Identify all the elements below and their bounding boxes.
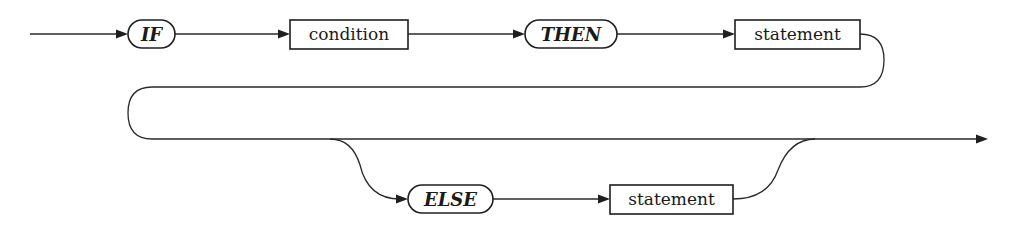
- terminal-then-label: THEN: [541, 24, 603, 45]
- arrow-into-then-icon: [513, 30, 525, 39]
- nonterminal-condition-label: condition: [309, 24, 390, 44]
- else-branch-up: [733, 139, 815, 199]
- terminal-else: ELSE: [408, 185, 493, 213]
- else-branch-down: [330, 139, 400, 199]
- arrow-exit-icon: [976, 135, 988, 144]
- arrow-into-statement-icon: [723, 30, 735, 39]
- arrow-into-condition-icon: [278, 30, 290, 39]
- nonterminal-statement-else-label: statement: [628, 189, 715, 209]
- terminal-if-label: IF: [140, 24, 163, 45]
- arrow-into-else-statement-icon: [598, 195, 610, 204]
- nonterminal-statement-then-label: statement: [754, 24, 841, 44]
- arrow-into-else-icon: [396, 195, 408, 204]
- terminal-then: THEN: [525, 20, 617, 48]
- arrow-into-if-icon: [116, 30, 128, 39]
- terminal-else-label: ELSE: [423, 189, 477, 210]
- nonterminal-condition: condition: [290, 20, 408, 49]
- nonterminal-statement-else: statement: [610, 185, 733, 214]
- terminal-if: IF: [128, 20, 175, 48]
- nonterminal-statement-then: statement: [735, 20, 860, 49]
- syntax-diagram: IF condition THEN statement ELSE stateme…: [0, 0, 1012, 231]
